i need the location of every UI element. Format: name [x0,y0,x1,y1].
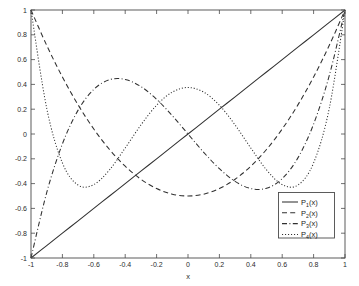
figure-canvas: -1-0.8-0.6-0.4-0.200.20.40.60.81 -1-0.8-… [0,0,359,286]
x-tick-label: -0.2 [151,261,163,268]
legend-label-1[interactable]: P1(x) [301,198,318,208]
x-tick-label: 0.6 [277,261,287,268]
x-tick-label: -0.8 [56,261,68,268]
x-axis-tick-labels: -1-0.8-0.6-0.4-0.200.20.40.60.81 [28,261,347,268]
x-tick-label: 1 [343,261,347,268]
y-tick-label: -0.8 [15,230,27,237]
x-tick-label: 0.8 [309,261,319,268]
y-tick-label: -0.2 [15,155,27,162]
x-tick-label: 0.4 [246,261,256,268]
y-tick-label: -0.6 [15,205,27,212]
x-tick-label: -0.4 [119,261,131,268]
chart-legend[interactable]: P1(x)P2(x)P3(x)P4(x) [279,193,335,241]
y-tick-label: 0.2 [17,106,27,113]
legend-label-2[interactable]: P2(x) [301,209,318,219]
x-tick-label: -1 [28,261,34,268]
legend-label-4[interactable]: P4(x) [301,230,318,240]
y-axis-tick-labels: -1-0.8-0.6-0.4-0.200.20.40.60.81 [15,7,27,262]
legendre-polynomial-chart: -1-0.8-0.6-0.4-0.200.20.40.60.81 -1-0.8-… [0,0,359,286]
y-tick-label: 0.4 [17,81,27,88]
x-tick-label: 0.2 [215,261,225,268]
x-tick-label: -0.6 [88,261,100,268]
y-tick-label: 0.6 [17,56,27,63]
y-tick-label: 1 [23,7,27,14]
y-tick-label: -0.4 [15,180,27,187]
y-tick-label: -1 [21,255,27,262]
y-tick-label: 0.8 [17,31,27,38]
legend-label-3[interactable]: P3(x) [301,219,318,229]
x-axis-label: x [186,272,190,281]
x-tick-label: 0 [186,261,190,268]
y-tick-label: 0 [23,131,27,138]
